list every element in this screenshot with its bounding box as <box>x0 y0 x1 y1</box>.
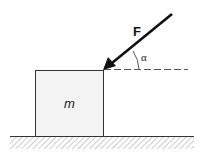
force-arrowhead-icon <box>103 57 116 70</box>
force-on-block-diagram: m F α <box>0 0 202 158</box>
angle-label: α <box>141 51 147 63</box>
angle-arc <box>133 51 139 69</box>
ground-hatch <box>10 137 194 149</box>
force-label: F <box>133 24 141 39</box>
mass-label: m <box>64 96 75 111</box>
